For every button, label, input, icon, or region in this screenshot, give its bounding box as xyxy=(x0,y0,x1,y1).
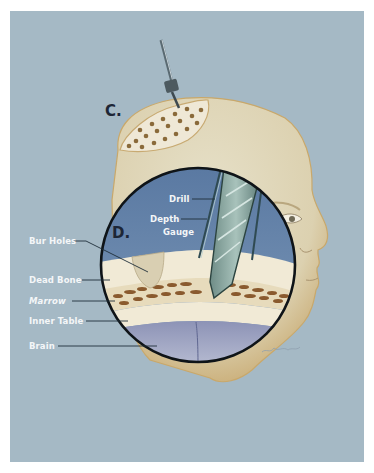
drill-c xyxy=(161,40,179,108)
callout-depth-gauge-line2: Gauge xyxy=(163,227,194,237)
callout-depth-gauge-line1: Depth xyxy=(150,214,180,224)
illustration-panel: C. D. Drill Depth Gauge Bur Holes Dead B… xyxy=(10,11,364,462)
callout-drill: Drill xyxy=(169,194,190,204)
panel-label-d: D. xyxy=(112,225,130,241)
callout-dead-bone: Dead Bone xyxy=(29,275,82,285)
callout-bur-holes: Bur Holes xyxy=(29,236,76,246)
callout-marrow: Marrow xyxy=(29,296,66,306)
callout-brain: Brain xyxy=(29,341,55,351)
panel-label-c: C. xyxy=(105,103,122,119)
callout-inner-table: Inner Table xyxy=(29,316,83,326)
